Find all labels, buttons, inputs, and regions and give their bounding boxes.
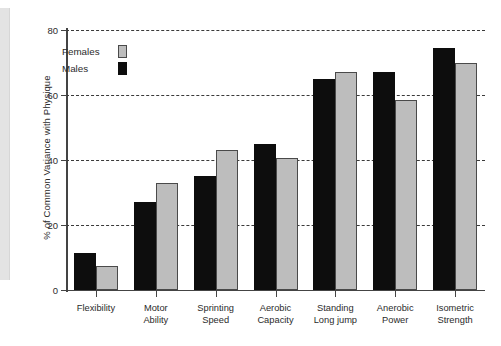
bar-males-3 bbox=[254, 144, 276, 290]
plot-area: 020406080 bbox=[66, 30, 485, 290]
x-tick-mark-2 bbox=[216, 290, 217, 297]
y-tick-label-40: 40 bbox=[47, 155, 58, 166]
bar-males-4 bbox=[313, 79, 335, 290]
y-tick-mark-60 bbox=[61, 95, 67, 96]
chart-legend: Females Males bbox=[62, 43, 127, 77]
y-tick-mark-80 bbox=[61, 30, 67, 31]
y-tick-label-60: 60 bbox=[47, 90, 58, 101]
x-tick-mark-1 bbox=[156, 290, 157, 297]
y-tick-label-0: 0 bbox=[53, 285, 58, 296]
legend-swatch-females bbox=[118, 45, 127, 58]
legend-label-males: Males bbox=[62, 63, 118, 74]
y-tick-mark-20 bbox=[61, 225, 67, 226]
x-tick-mark-0 bbox=[96, 290, 97, 297]
bar-females-6 bbox=[455, 63, 477, 291]
bar-males-1 bbox=[134, 202, 156, 290]
x-tick-mark-6 bbox=[455, 290, 456, 297]
y-tick-mark-0 bbox=[61, 290, 67, 291]
x-tick-mark-5 bbox=[395, 290, 396, 297]
gridline-80 bbox=[66, 30, 485, 31]
x-tick-mark-3 bbox=[276, 290, 277, 297]
gridline-60 bbox=[66, 95, 485, 96]
scan-edge-artifact bbox=[0, 8, 10, 280]
bar-females-3 bbox=[276, 158, 298, 290]
bar-females-1 bbox=[156, 183, 178, 290]
legend-label-females: Females bbox=[62, 46, 118, 57]
legend-item-females: Females bbox=[62, 43, 127, 60]
bar-females-5 bbox=[395, 100, 417, 290]
bar-chart: % of Common Variance with Physique 02040… bbox=[0, 0, 501, 346]
bar-males-6 bbox=[433, 48, 455, 290]
bar-females-2 bbox=[216, 150, 238, 290]
y-tick-mark-40 bbox=[61, 160, 67, 161]
bar-females-4 bbox=[335, 72, 357, 290]
bar-males-0 bbox=[74, 253, 96, 290]
y-tick-label-80: 80 bbox=[47, 25, 58, 36]
legend-swatch-males bbox=[118, 62, 127, 75]
bar-females-0 bbox=[96, 266, 118, 290]
x-tick-mark-4 bbox=[335, 290, 336, 297]
bar-males-5 bbox=[373, 72, 395, 290]
y-tick-label-20: 20 bbox=[47, 220, 58, 231]
bar-males-2 bbox=[194, 176, 216, 290]
legend-item-males: Males bbox=[62, 60, 127, 77]
x-axis-label-6: IsometricStrength bbox=[416, 303, 494, 326]
